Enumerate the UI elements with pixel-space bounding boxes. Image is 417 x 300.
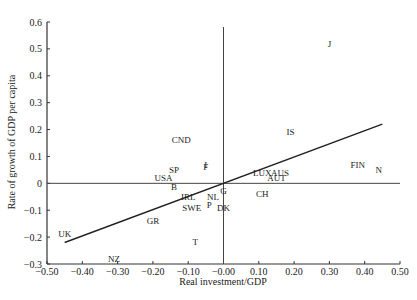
x-tick-label: 0.50 xyxy=(391,266,409,277)
x-tick-label: 0.40 xyxy=(356,266,374,277)
x-tick-label: 0.20 xyxy=(285,266,303,277)
point-label: AUT xyxy=(267,173,286,183)
y-tick-label: −0.2 xyxy=(24,232,42,243)
point-label: FIN xyxy=(350,160,365,170)
x-tick-label: −0.20 xyxy=(141,266,164,277)
point-label: GR xyxy=(147,216,160,226)
point-label: CND xyxy=(172,135,192,145)
point-label: P xyxy=(207,200,212,210)
point-label: B xyxy=(171,182,177,192)
point-label: SP xyxy=(169,165,179,175)
x-tick-label: −0.40 xyxy=(71,266,94,277)
point-label: IS xyxy=(287,127,295,137)
axes: −0.50−0.40−0.30−0.20−0.10−0.000.100.200.… xyxy=(24,17,409,278)
y-tick-label: 0.6 xyxy=(30,17,43,28)
x-tick-label: −0.30 xyxy=(106,266,129,277)
point-label: N xyxy=(376,165,383,175)
y-axis-label: Rate of growth of GDP per capita xyxy=(6,74,17,209)
point-label: T xyxy=(193,237,199,247)
point-label: UK xyxy=(58,229,71,239)
y-tick-label: 0.1 xyxy=(30,151,43,162)
point-label: J xyxy=(328,39,332,49)
y-tick-label: 0 xyxy=(37,178,42,189)
y-tick-label: 0.5 xyxy=(30,43,43,54)
y-tick-label: −0.3 xyxy=(24,259,42,270)
point-label: G xyxy=(220,186,227,196)
reference-lines xyxy=(47,27,400,264)
point-label: NZ xyxy=(108,254,120,264)
point-label: DK xyxy=(217,203,230,213)
scatter-chart: −0.50−0.40−0.30−0.20−0.10−0.000.100.200.… xyxy=(0,0,417,300)
point-label: CH xyxy=(256,189,269,199)
point-label: IRL xyxy=(181,192,196,202)
y-tick-label: −0.1 xyxy=(24,205,42,216)
x-axis-label: Real investment/GDP xyxy=(179,276,267,287)
point-label: SWE xyxy=(182,203,202,213)
point-label: I xyxy=(204,160,207,170)
x-tick-label: 0.30 xyxy=(321,266,339,277)
y-tick-label: 0.4 xyxy=(30,70,43,81)
y-tick-label: 0.2 xyxy=(30,124,43,135)
y-tick-label: 0.3 xyxy=(30,97,43,108)
point-labels: JISCNDFINNLUXAUSAUTCHUSASPFIBGIRLNLPSWED… xyxy=(58,39,382,264)
